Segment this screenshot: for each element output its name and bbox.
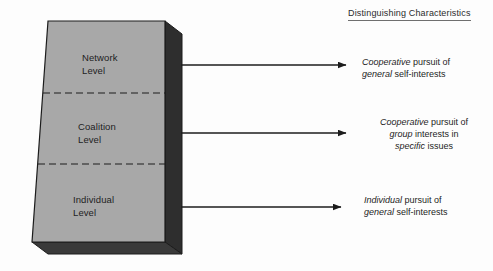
block-right-face <box>165 21 182 254</box>
characteristic-network: Cooperative pursuit ofgeneral self-inter… <box>362 56 450 80</box>
level-label-network: Network Level <box>82 52 118 77</box>
characteristic-individual: Individual pursuit ofgeneral self-intere… <box>364 194 448 218</box>
characteristic-coalition: Cooperative pursuit ofgroup interests in… <box>362 116 486 152</box>
level-label-coalition: Coalition Level <box>78 121 116 146</box>
diagram-canvas: Network Level Coalition Level Individual… <box>0 0 493 271</box>
block-bottom-face <box>32 242 182 254</box>
distinguishing-characteristics-header: Distinguishing Characteristics <box>348 8 471 21</box>
level-label-individual: Individual Level <box>73 194 114 219</box>
